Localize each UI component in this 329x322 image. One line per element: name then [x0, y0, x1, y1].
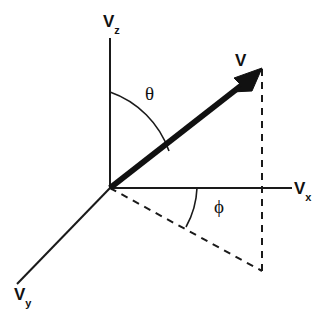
- xy-projection-dashed-line: [110, 188, 262, 271]
- vector-label-base: V: [235, 51, 246, 70]
- phi-angle-label: ϕ: [214, 197, 224, 216]
- v-y-axis-label-subscript: y: [25, 297, 31, 309]
- v-x-axis-label-subscript: x: [305, 191, 311, 203]
- phi-angle-arc: [186, 188, 197, 227]
- v-z-axis-label-base: V: [103, 12, 114, 31]
- v-y-axis-label-base: V: [14, 285, 25, 304]
- v-z-axis-label-subscript: z: [114, 24, 120, 36]
- vector-diagram-canvas: [0, 0, 329, 322]
- v-z-axis-label: Vz: [103, 13, 120, 33]
- theta-angle-label: θ: [145, 84, 154, 103]
- v-x-axis-label-base: V: [294, 179, 305, 198]
- v-y-axis-label: Vy: [14, 286, 31, 306]
- y-axis-line: [17, 188, 110, 284]
- vector-diagram-figure: Vz Vy Vx V θ ϕ: [0, 0, 329, 322]
- theta-angle-arc: [110, 92, 169, 151]
- vector-shaft: [110, 81, 247, 188]
- vector-label: V: [235, 52, 246, 69]
- v-x-axis-label: Vx: [294, 180, 311, 200]
